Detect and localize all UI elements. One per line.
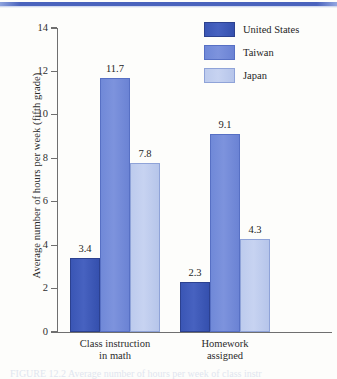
y-axis-tick-label: 10: [8, 109, 48, 120]
y-axis-title: Average number of hours per week (fifth …: [31, 46, 42, 306]
bar-value-label: 7.8: [124, 149, 166, 160]
y-axis-tick-label: 12: [8, 66, 48, 77]
bar-us-group2: [180, 282, 210, 332]
legend-swatch-jp: [204, 68, 235, 83]
y-axis-tick: [51, 331, 57, 332]
legend-item-jp: Japan: [204, 66, 299, 85]
bar-value-label: 11.7: [94, 64, 136, 75]
y-axis-tick-label: 8: [8, 153, 48, 164]
legend-swatch-us: [204, 22, 235, 37]
y-axis-tick: [51, 245, 57, 246]
figure-caption: FIGURE 12.2 Average number of hours per …: [10, 368, 337, 379]
x-axis-line: [57, 332, 332, 333]
y-axis-tick: [51, 288, 57, 289]
bar-jp-group2: [240, 239, 270, 332]
y-axis-tick-label: 2: [8, 283, 48, 294]
y-axis-tick-label: 0: [8, 327, 48, 338]
legend-label: United States: [243, 24, 299, 35]
y-axis-tick: [51, 114, 57, 115]
y-axis-tick-label: 6: [8, 196, 48, 207]
x-axis-category-label: Homeworkassigned: [155, 338, 295, 361]
bar-us-group1: [70, 258, 100, 332]
legend-item-tw: Taiwan: [204, 43, 299, 62]
y-axis-tick-label: 14: [8, 23, 48, 34]
bar-jp-group1: [130, 163, 160, 332]
category-label-line1: Homework: [155, 338, 295, 350]
y-axis-tick: [51, 71, 57, 72]
legend-label: Japan: [243, 70, 267, 81]
y-axis-line: [57, 28, 58, 333]
legend-label: Taiwan: [243, 47, 274, 58]
y-axis-tick: [51, 158, 57, 159]
y-axis-tick: [51, 201, 57, 202]
category-label-line2: assigned: [155, 350, 295, 362]
bar-tw-group1: [100, 78, 130, 332]
y-axis-tick: [51, 27, 57, 28]
bar-value-label: 4.3: [234, 225, 276, 236]
chart-legend: United StatesTaiwanJapan: [204, 20, 299, 89]
y-axis-tick-label: 4: [8, 240, 48, 251]
legend-item-us: United States: [204, 20, 299, 39]
bar-value-label: 9.1: [204, 120, 246, 131]
legend-swatch-tw: [204, 45, 235, 60]
